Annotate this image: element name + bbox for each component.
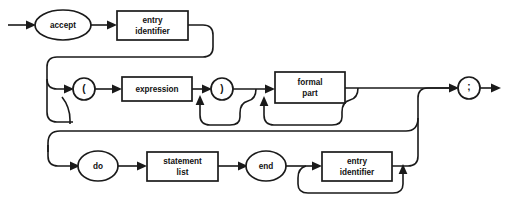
rail-branch-to-do-row bbox=[62, 97, 70, 124]
node-statement-list-line1: statement bbox=[163, 157, 202, 166]
rail-into-do bbox=[48, 145, 71, 166]
node-semicolon-label: ; bbox=[467, 81, 470, 92]
railroad-diagram-svg: accept entry identifier ( expression ) f… bbox=[0, 0, 508, 219]
node-entry-identifier-1-line2: identifier bbox=[135, 27, 170, 36]
rail-row2-return-rail bbox=[48, 118, 418, 152]
node-expression-label: expression bbox=[135, 85, 178, 94]
rail-entryid2-to-riser bbox=[392, 118, 418, 166]
node-entry-identifier-2-line1: entry bbox=[347, 157, 367, 166]
node-formal-part-shape bbox=[275, 72, 345, 103]
rail-arrow-to-entryid1 bbox=[107, 21, 117, 30]
node-statement-list-line2: list bbox=[177, 168, 189, 177]
node-formal-part-line2: part bbox=[302, 89, 318, 98]
rail-arrow-to-expression bbox=[112, 85, 122, 94]
node-entry-identifier-2-line2: identifier bbox=[340, 168, 375, 177]
node-rparen-label: ) bbox=[220, 83, 223, 94]
syntax-diagram-canvas: accept entry identifier ( expression ) f… bbox=[0, 0, 508, 219]
rail-arrow-to-formalpart bbox=[265, 85, 275, 94]
rail-arrow-to-statementlist bbox=[137, 162, 147, 171]
node-formal-part-line1: formal bbox=[297, 78, 322, 87]
node-entry-identifier-1-line1: entry bbox=[142, 16, 162, 25]
rail-arrow-repeat-formalpart bbox=[196, 95, 205, 105]
rail-riser-to-mainline bbox=[418, 88, 450, 118]
node-accept-label: accept bbox=[50, 21, 76, 30]
node-end-label: end bbox=[259, 162, 274, 171]
rail-arrow-outer-loop bbox=[260, 96, 269, 106]
rail-arrow-to-entryid2 bbox=[312, 162, 322, 171]
node-do-label: do bbox=[93, 162, 103, 171]
rail-arrow-exit bbox=[491, 84, 501, 93]
